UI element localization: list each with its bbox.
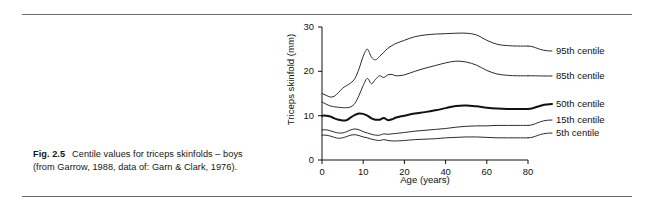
y-tick-20: 20 — [294, 65, 314, 76]
legend-label-95th-centile: 95th centile — [556, 45, 605, 56]
x-tick-40: 40 — [435, 166, 457, 177]
top-divider-rule — [22, 14, 632, 15]
legend-line-stubs — [528, 46, 552, 138]
centile-curve-5th-centile — [322, 135, 528, 141]
y-tick-30: 30 — [294, 21, 314, 32]
bottom-divider-rule — [22, 196, 632, 197]
x-tick-60: 60 — [476, 166, 498, 177]
legend-stub-5th-centile — [528, 133, 552, 138]
chart-axes — [318, 27, 528, 164]
centile-curve-15th-centile — [322, 125, 528, 135]
figure-caption: Fig. 2.5Centile values for triceps skinf… — [33, 148, 265, 173]
centile-curve-95th-centile — [322, 33, 528, 97]
figure-page: Fig. 2.5Centile values for triceps skinf… — [0, 0, 645, 213]
y-tick-0: 0 — [294, 154, 314, 165]
chart-curves — [322, 33, 528, 141]
centile-curve-85th-centile — [322, 61, 528, 108]
legend-label-5th-centile: 5th centile — [556, 127, 599, 138]
x-tick-10: 10 — [352, 166, 374, 177]
x-tick-0: 0 — [311, 166, 333, 177]
centile-curve-50th-centile — [322, 105, 528, 120]
x-tick-20: 20 — [393, 166, 415, 177]
legend-label-85th-centile: 85th centile — [556, 70, 605, 81]
y-tick-10: 10 — [294, 110, 314, 121]
legend-stub-50th-centile — [528, 104, 552, 109]
legend-label-50th-centile: 50th centile — [556, 98, 605, 109]
legend-label-15th-centile: 15th centile — [556, 114, 605, 125]
legend-stub-95th-centile — [528, 46, 552, 51]
figure-number-label: Fig. 2.5 — [33, 149, 65, 159]
x-tick-80: 80 — [517, 166, 539, 177]
legend-stub-15th-centile — [528, 120, 552, 125]
chart-figure: Triceps skinfold (mm) Age (years) 010203… — [278, 18, 638, 196]
